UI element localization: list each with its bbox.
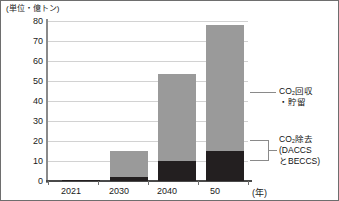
bar-2040-segment-cdr	[158, 161, 196, 181]
x-tick-label-2030: 2030	[97, 186, 141, 196]
legend-leader-cdr-vertical	[268, 140, 269, 161]
x-tick-label-50: 50	[193, 186, 237, 196]
x-tick-mark-3	[198, 181, 199, 185]
y-tick-80: 80	[3, 17, 43, 26]
y-tick-40: 40	[3, 97, 43, 106]
legend-leader-cdr-stem	[268, 150, 277, 151]
y-tick-60: 60	[3, 57, 43, 66]
legend-item-cdr-line2: (DACCS	[279, 145, 312, 155]
x-tick-mark-2	[148, 181, 149, 185]
legend-leader-cdr-top	[250, 140, 268, 141]
bar-2030-segment-cdr	[110, 177, 148, 181]
legend-item-ccs-line1: CO₂回収	[279, 86, 313, 96]
legend-item-cdr-line1: CO₂除去	[279, 134, 313, 144]
y-tick-30: 30	[3, 117, 43, 126]
y-axis-labels: 80 70 60 50 40 30 20 10 0	[0, 0, 43, 201]
legend-leader-ccs	[250, 92, 276, 93]
x-axis-unit-label: (年)	[252, 186, 267, 199]
x-tick-mark-1	[98, 181, 99, 185]
legend-item-ccs-line2: ・貯留	[279, 97, 306, 107]
bar-2021-segment-cdr	[62, 180, 100, 181]
bar-2030[interactable]	[110, 151, 148, 181]
x-tick-mark-4	[248, 181, 249, 185]
bar-2040[interactable]	[158, 74, 196, 181]
y-tick-0: 0	[3, 177, 43, 186]
legend-item-cdr[interactable]: CO₂除去 (DACCS とBECCS)	[279, 134, 320, 167]
x-tick-label-2021: 2021	[49, 186, 93, 196]
y-tick-70: 70	[3, 37, 43, 46]
bar-2021[interactable]	[62, 180, 100, 181]
gridline-80	[48, 21, 248, 22]
bar-2050[interactable]	[206, 25, 244, 181]
co2-removal-stacked-bar-chart: (単位・億トン) 80 70 60 50 40 30 20 10 0	[0, 0, 339, 201]
legend-item-cdr-line3: とBECCS)	[279, 156, 320, 166]
plot-area	[48, 21, 248, 181]
x-tick-mark-0	[48, 181, 49, 185]
legend-item-ccs[interactable]: CO₂回収 ・貯留	[279, 86, 313, 108]
legend-leader-cdr-bottom	[250, 160, 268, 161]
y-tick-20: 20	[3, 137, 43, 146]
y-tick-50: 50	[3, 77, 43, 86]
x-tick-label-2040: 2040	[145, 186, 189, 196]
bar-2050-segment-cdr	[206, 151, 244, 181]
y-tick-10: 10	[3, 157, 43, 166]
